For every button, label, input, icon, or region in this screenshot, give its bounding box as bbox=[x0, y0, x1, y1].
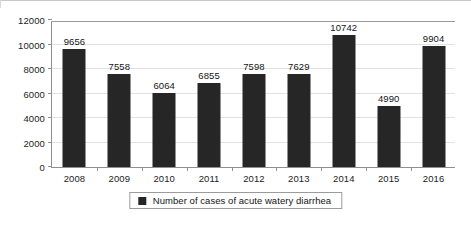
bar-group: 96562008 bbox=[52, 22, 97, 167]
bar-value-label: 7558 bbox=[109, 61, 131, 72]
bar-group: 60642010 bbox=[142, 22, 187, 167]
y-axis-tick-label: 2000 bbox=[23, 137, 45, 148]
chart-outer-border-top bbox=[0, 0, 471, 1]
bar-chart: 020004000600080001000012000 965620087558… bbox=[0, 0, 471, 227]
y-axis-tick-label: 4000 bbox=[23, 113, 45, 124]
legend-item-label: Number of cases of acute watery diarrhea bbox=[153, 195, 331, 206]
bar-group: 107422014 bbox=[321, 22, 366, 167]
y-axis-tick-label: 10000 bbox=[18, 39, 45, 50]
bar-value-label: 7629 bbox=[288, 61, 310, 72]
y-axis-tick bbox=[48, 19, 52, 20]
bar-group: 75982012 bbox=[232, 22, 277, 167]
chart-legend: Number of cases of acute watery diarrhea bbox=[129, 192, 342, 209]
bar-value-label: 4990 bbox=[378, 93, 400, 104]
bar bbox=[422, 46, 445, 167]
square-marker-icon bbox=[138, 197, 146, 205]
bar-group: 76292013 bbox=[276, 22, 321, 167]
y-axis-tick-label: 6000 bbox=[23, 88, 45, 99]
x-axis-tick-label: 2013 bbox=[288, 173, 310, 184]
bar bbox=[242, 74, 265, 167]
x-axis-tick-label: 2014 bbox=[333, 173, 355, 184]
bar-value-label: 10742 bbox=[330, 22, 357, 33]
x-axis-tick bbox=[187, 167, 188, 171]
bar-value-label: 6855 bbox=[198, 70, 220, 81]
y-axis-tick-label: 8000 bbox=[23, 64, 45, 75]
x-axis-tick-label: 2012 bbox=[243, 173, 265, 184]
bar-value-label: 9904 bbox=[423, 33, 445, 44]
bar bbox=[377, 106, 400, 167]
bar bbox=[198, 83, 221, 167]
x-axis-tick bbox=[276, 167, 277, 171]
plot-area: 020004000600080001000012000 965620087558… bbox=[51, 21, 455, 168]
x-axis-tick bbox=[411, 167, 412, 171]
chart-outer-border-left bbox=[0, 0, 1, 8]
bar bbox=[153, 93, 176, 167]
x-axis-tick bbox=[366, 167, 367, 171]
bar-value-label: 6064 bbox=[153, 80, 175, 91]
y-axis-tick-label: 0 bbox=[40, 162, 45, 173]
x-axis-tick-label: 2010 bbox=[153, 173, 175, 184]
bar-group: 99042016 bbox=[411, 22, 456, 167]
x-axis-tick-label: 2015 bbox=[378, 173, 400, 184]
bar bbox=[108, 74, 131, 167]
y-axis-tick-label: 12000 bbox=[18, 15, 45, 26]
bar-value-label: 9656 bbox=[64, 36, 86, 47]
x-axis-tick-label: 2016 bbox=[423, 173, 445, 184]
x-axis-tick bbox=[97, 167, 98, 171]
bar-group: 75582009 bbox=[97, 22, 142, 167]
x-axis-tick bbox=[232, 167, 233, 171]
bar-group: 68552011 bbox=[187, 22, 232, 167]
bar bbox=[287, 74, 310, 167]
x-axis-tick-label: 2009 bbox=[109, 173, 131, 184]
x-axis-tick bbox=[321, 167, 322, 171]
bar bbox=[63, 49, 86, 167]
bar bbox=[332, 35, 355, 167]
x-axis-tick bbox=[142, 167, 143, 171]
x-axis-tick-label: 2011 bbox=[199, 173, 220, 184]
bar-group: 49902015 bbox=[366, 22, 411, 167]
bar-value-label: 7598 bbox=[243, 61, 265, 72]
x-axis-tick-label: 2008 bbox=[64, 173, 86, 184]
